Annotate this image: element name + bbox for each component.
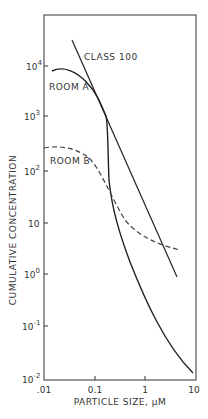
svg-text:102: 102 [24, 164, 40, 177]
y-tick-labels: 104 103 102 10 100 10-1 10-2 [22, 59, 42, 385]
svg-text:103: 103 [24, 109, 40, 122]
svg-text:100: 100 [24, 267, 40, 280]
y-axis-label: CUMULATIVE CONCENTRATION [8, 155, 18, 305]
x-axis-label: PARTICLE SIZE, µM [74, 397, 167, 407]
svg-text:104: 104 [26, 59, 42, 72]
svg-text:10-2: 10-2 [22, 372, 40, 385]
svg-text:1: 1 [142, 385, 148, 395]
label-class-100: CLASS 100 [84, 52, 138, 62]
label-room-b: ROOM B [50, 156, 90, 166]
svg-text:0.1: 0.1 [88, 385, 102, 395]
series-room-a [52, 69, 193, 373]
x-ticks [95, 376, 145, 380]
svg-text:10: 10 [188, 385, 200, 395]
svg-text:10: 10 [28, 219, 40, 229]
y-ticks [44, 66, 48, 326]
svg-text:10-1: 10-1 [22, 319, 40, 332]
svg-text:.01: .01 [37, 385, 51, 395]
chart: 104 103 102 10 100 10-1 10-2 .01 0.1 1 1… [0, 0, 208, 419]
x-tick-labels: .01 0.1 1 10 [37, 385, 200, 395]
label-room-a: ROOM A [49, 82, 90, 92]
